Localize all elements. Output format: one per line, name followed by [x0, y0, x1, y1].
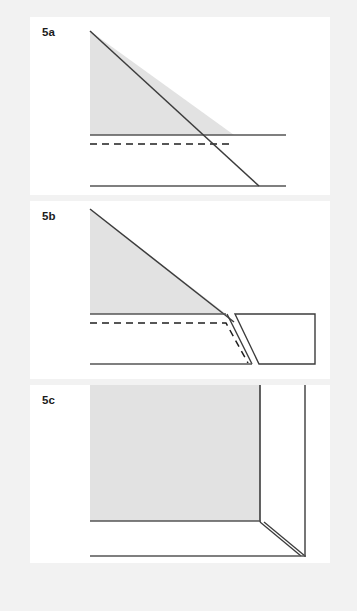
- panel-5c: 5c: [30, 385, 330, 563]
- panel-5a: 5a: [30, 17, 330, 195]
- panel-5c-diagram: [30, 385, 330, 563]
- panel-5b-diagram: [30, 201, 330, 379]
- panel-5b: 5b: [30, 201, 330, 379]
- slip-band-upper-line-5c: [260, 522, 301, 556]
- shaded-block-5c: [90, 385, 260, 521]
- panel-5a-diagram: [30, 17, 330, 195]
- shaded-wedge-5a: [90, 31, 234, 135]
- slip-band-lower-line-5c: [264, 522, 305, 556]
- detached-block-5b: [235, 314, 315, 364]
- figure-root: 5a 5b: [0, 0, 357, 611]
- dashed-displaced-horizon-5b: [90, 323, 248, 363]
